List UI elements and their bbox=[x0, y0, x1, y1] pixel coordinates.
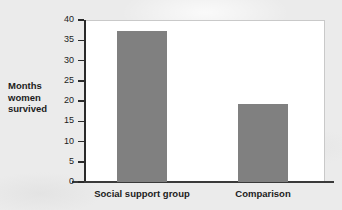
y-axis-tick-label-20: 20 bbox=[52, 96, 74, 105]
y-axis-tick-30 bbox=[78, 60, 84, 62]
y-axis-tick-35 bbox=[78, 40, 84, 42]
y-axis-tick-label-35: 35 bbox=[52, 35, 74, 44]
y-axis-tick-label-25: 25 bbox=[52, 76, 74, 85]
bar-2 bbox=[238, 104, 288, 182]
y-axis-tick-15 bbox=[78, 121, 84, 123]
y-axis-tick-label-40: 40 bbox=[52, 15, 74, 24]
y-axis-tick-label-15: 15 bbox=[52, 116, 74, 125]
y-axis-tick-label-5: 5 bbox=[52, 157, 74, 166]
y-axis-tick-0 bbox=[78, 181, 84, 183]
y-axis-tick-label-10: 10 bbox=[52, 137, 74, 146]
y-axis-tick-25 bbox=[78, 80, 84, 82]
bar-1 bbox=[117, 31, 167, 182]
x-axis-line bbox=[72, 181, 334, 183]
category-label-2: Comparison bbox=[183, 188, 342, 199]
y-axis-tick-20 bbox=[78, 100, 84, 102]
y-axis-tick-label-0: 0 bbox=[52, 177, 74, 186]
y-axis-tick-5 bbox=[78, 161, 84, 163]
y-axis-tick-40 bbox=[78, 19, 84, 21]
y-axis-tick-label-30: 30 bbox=[52, 56, 74, 65]
y-axis-tick-10 bbox=[78, 141, 84, 143]
bar-chart-figure: Months women survived 0510152025303540 S… bbox=[0, 0, 342, 210]
y-axis-line bbox=[84, 20, 86, 182]
